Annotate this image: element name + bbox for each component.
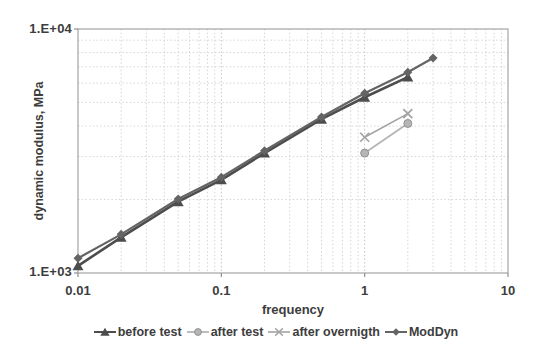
legend-item-after-test: after test	[186, 325, 264, 339]
diamond-legend-marker-icon	[384, 325, 408, 339]
dynamic-modulus-chart: 1.E+04 1.E+03 dynamic modulus, MPa frequ…	[0, 0, 541, 358]
circle-marker-icon	[361, 149, 369, 157]
x-legend-marker-icon	[267, 325, 291, 339]
circle-marker-icon	[404, 119, 412, 127]
legend-label: ModDyn	[409, 325, 458, 339]
legend-label: after test	[211, 325, 264, 339]
y-axis-title: dynamic modulus, MPa	[32, 82, 46, 221]
chart-legend: before testafter testafter overnigthModD…	[0, 325, 541, 339]
x-axis-tick-10: 10	[501, 283, 515, 298]
x-axis-title: frequency	[262, 302, 324, 317]
legend-label: after overnigth	[292, 325, 380, 339]
x-axis-tick-0.1: 0.1	[212, 283, 230, 298]
diamond-marker-icon	[74, 254, 83, 263]
series-line-after-test	[365, 123, 408, 153]
legend-item-after-overnigth: after overnigth	[267, 325, 380, 339]
plot-frame	[78, 29, 508, 273]
legend-label: before test	[118, 325, 182, 339]
legend-item-ModDyn: ModDyn	[384, 325, 458, 339]
y-axis-tick-1e04: 1.E+04	[14, 21, 72, 36]
x-axis-tick-0.01: 0.01	[65, 283, 90, 298]
circle-legend-marker-icon	[186, 325, 210, 339]
triangle-legend-marker-icon	[93, 325, 117, 339]
x-axis-tick-1: 1	[361, 283, 368, 298]
diamond-marker-icon	[429, 54, 438, 63]
y-axis-tick-1e03: 1.E+03	[14, 264, 72, 279]
legend-item-before-test: before test	[93, 325, 182, 339]
series-line-after-overnigth	[365, 114, 408, 138]
diamond-marker-icon	[403, 68, 412, 77]
